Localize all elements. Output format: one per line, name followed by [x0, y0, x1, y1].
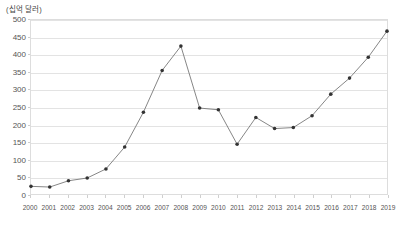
x-axis-tick-label: 2017: [343, 204, 358, 211]
data-point-marker: 2000: 22: [29, 185, 33, 189]
data-point-marker: 2015: 225: [310, 114, 314, 118]
data-series-line: 2000: 222001: 202002: 382003: 462004: 72…: [31, 20, 387, 194]
data-point-marker: 2003: 46: [85, 176, 89, 180]
x-axis-tick-mark: [331, 195, 332, 198]
x-axis-tick-mark: [162, 195, 163, 198]
x-axis-tick-mark: [369, 195, 370, 198]
y-axis: 050100150200250300350400450500: [0, 19, 30, 195]
line-chart: (십억 달러) 050100150200250300350400450500 2…: [0, 0, 398, 232]
data-point-marker: 2006: 235: [142, 110, 146, 114]
x-axis-tick-mark: [143, 195, 144, 198]
x-axis-tick-mark: [68, 195, 69, 198]
data-point-marker: 2017: 333: [348, 76, 352, 80]
x-axis-tick-mark: [294, 195, 295, 198]
data-point-marker: 2010: 242: [217, 108, 221, 112]
x-axis-tick-label: 2000: [23, 204, 38, 211]
y-axis-tick-label: 150: [13, 138, 26, 147]
data-point-marker: 2008: 425: [179, 44, 183, 48]
y-axis-tick-label: 250: [13, 103, 26, 112]
x-axis-tick-label: 2007: [155, 204, 170, 211]
data-point-marker: 2007: 355: [160, 69, 164, 73]
x-axis-tick-mark: [350, 195, 351, 198]
x-axis-tick-label: 2019: [381, 204, 396, 211]
x-axis-tick-mark: [49, 195, 50, 198]
x-axis-tick-label: 2004: [98, 204, 113, 211]
x-axis-tick-mark: [256, 195, 257, 198]
data-point-marker: 2011: 143: [235, 142, 239, 146]
x-axis-tick-label: 2011: [230, 204, 244, 211]
x-axis-tick-mark: [124, 195, 125, 198]
x-axis-tick-label: 2016: [324, 204, 339, 211]
series-polyline: [31, 31, 387, 187]
data-point-marker: 2016: 287: [329, 92, 333, 96]
y-axis-tick-label: 100: [13, 155, 26, 164]
x-axis-tick-label: 2009: [192, 204, 207, 211]
x-axis-tick-label: 2008: [173, 204, 188, 211]
y-axis-tick-label: 500: [13, 15, 26, 24]
x-axis-tick-label: 2015: [305, 204, 320, 211]
data-point-marker: 2002: 38: [67, 179, 71, 183]
plot-area: 2000: 222001: 202002: 382003: 462004: 72…: [30, 19, 388, 195]
data-point-marker: 2001: 20: [48, 185, 52, 189]
x-axis-tick-mark: [105, 195, 106, 198]
x-axis-tick-label: 2006: [136, 204, 151, 211]
data-point-marker: 2005: 135: [123, 145, 127, 149]
y-axis-tick-label: 400: [13, 50, 26, 59]
x-axis-tick-label: 2014: [286, 204, 301, 211]
data-point-marker: 2014: 191: [292, 126, 296, 130]
x-axis-tick-mark: [200, 195, 201, 198]
y-axis-tick-label: 200: [13, 120, 26, 129]
x-axis-tick-mark: [388, 195, 389, 198]
x-axis-tick-mark: [275, 195, 276, 198]
x-axis-tick-label: 2001: [41, 204, 56, 211]
data-point-marker: 2019: 468: [385, 29, 389, 33]
y-axis-tick-label: 300: [13, 85, 26, 94]
data-point-marker: 2013: 188: [273, 127, 277, 131]
y-axis-tick-label: 0: [22, 191, 26, 200]
x-axis-tick-label: 2002: [60, 204, 75, 211]
x-axis-tick-label: 2010: [211, 204, 226, 211]
y-axis-tick-label: 50: [17, 173, 26, 182]
x-axis-tick-label: 2005: [117, 204, 132, 211]
data-point-marker: 2009: 247: [198, 106, 202, 110]
x-axis: 2000200120022003200420052006200720082009…: [30, 195, 388, 232]
x-axis-tick-label: 2013: [268, 204, 283, 211]
x-axis-tick-label: 2003: [79, 204, 94, 211]
y-axis-tick-label: 350: [13, 67, 26, 76]
x-axis-tick-mark: [218, 195, 219, 198]
x-axis-tick-mark: [237, 195, 238, 198]
x-axis-tick-mark: [30, 195, 31, 198]
data-point-marker: 2004: 72: [104, 167, 108, 171]
x-axis-tick-label: 2018: [362, 204, 377, 211]
y-axis-tick-label: 450: [13, 32, 26, 41]
data-point-marker: 2018: 393: [366, 55, 370, 59]
x-axis-tick-mark: [181, 195, 182, 198]
y-axis-unit-label: (십억 달러): [6, 3, 42, 14]
data-point-marker: 2012: 220: [254, 116, 258, 120]
x-axis-tick-mark: [313, 195, 314, 198]
x-axis-tick-label: 2012: [249, 204, 264, 211]
x-axis-tick-mark: [87, 195, 88, 198]
